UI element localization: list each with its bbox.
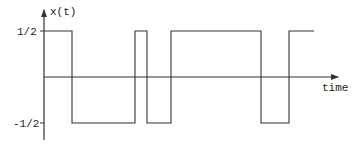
y-axis-label: x(t) bbox=[50, 6, 76, 18]
waveform-diagram: x(t) time 1/2 -1/2 bbox=[0, 0, 364, 145]
x-axis-label: time bbox=[322, 82, 348, 94]
tick-label-low: -1/2 bbox=[13, 118, 39, 130]
tick-label-high: 1/2 bbox=[17, 26, 37, 38]
